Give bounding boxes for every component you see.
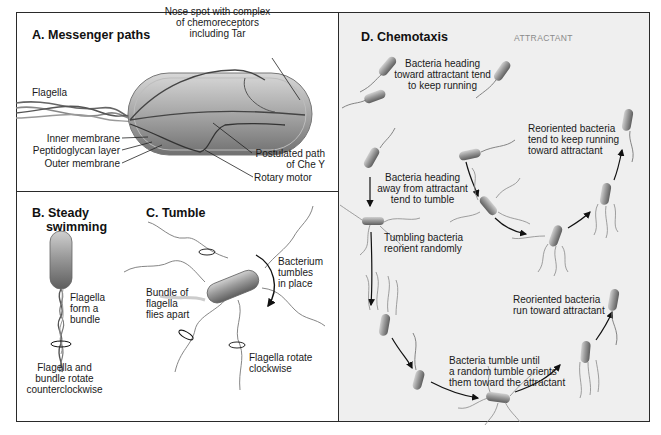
rotary-motor-label: Rotary motor bbox=[254, 172, 312, 183]
bundle-label: Flagella form a bundle bbox=[70, 292, 105, 325]
panel-a-title: A. Messenger paths bbox=[32, 28, 150, 42]
peptidoglycan-label: Peptidoglycan layer bbox=[20, 145, 120, 156]
inner-membrane-label: Inner membrane bbox=[30, 133, 120, 144]
postulated-path-label: Postulated path of Che Y bbox=[245, 148, 325, 170]
attractant-label: ATTRACTANT bbox=[514, 33, 573, 43]
panel-b-title: B. Steady swimming bbox=[32, 206, 107, 234]
rotation-ccw-label: Flagella and bundle rotate counterclockw… bbox=[22, 362, 107, 395]
flies-apart-label: Bundle of flagella flies apart bbox=[146, 287, 189, 320]
tumble-until-label: Bacteria tumble until a random tumble or… bbox=[449, 355, 565, 388]
tumbling-reorient-label: Tumbling bacteria reorient randomly bbox=[384, 232, 463, 254]
flagella-label: Flagella bbox=[32, 87, 67, 98]
panel-d-title: D. Chemotaxis bbox=[361, 30, 448, 44]
steady-swimming-cell bbox=[50, 231, 72, 372]
reoriented-keep-running-label: Reoriented bacteria tend to keep running… bbox=[528, 123, 619, 156]
reoriented-run-label: Reoriented bacteria run toward attractan… bbox=[513, 294, 605, 316]
clockwise-label: Flagella rotate clockwise bbox=[249, 352, 312, 374]
tumbles-label: Bacterium tumbles in place bbox=[278, 256, 323, 289]
away-from-attractant-label: Bacteria heading away from attractant te… bbox=[370, 172, 475, 205]
toward-attractant-label: Bacteria heading toward attractant tend … bbox=[385, 58, 500, 91]
nose-spot-label: Nose spot with complex of chemoreceptors… bbox=[160, 6, 275, 39]
outer-membrane-label: Outer membrane bbox=[30, 158, 120, 169]
panel-c-title: C. Tumble bbox=[146, 206, 206, 220]
